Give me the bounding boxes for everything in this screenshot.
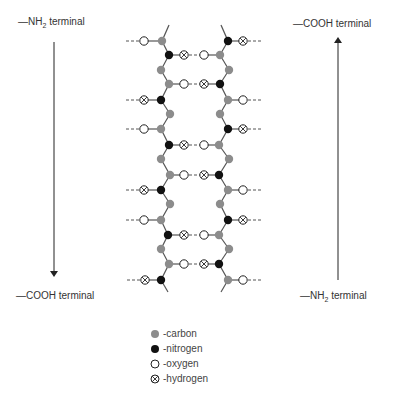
oxygen-atom bbox=[239, 96, 247, 104]
oxygen-atom bbox=[180, 80, 188, 88]
oxygen-atom bbox=[180, 260, 188, 268]
carbon-atom bbox=[216, 110, 224, 118]
carbon-atom bbox=[166, 110, 174, 118]
carbon-atom bbox=[166, 171, 174, 179]
carbon-atom bbox=[216, 51, 224, 59]
nitrogen-icon bbox=[150, 344, 160, 354]
atoms bbox=[140, 37, 247, 284]
carbon-atom bbox=[157, 216, 165, 224]
oxygen-atom bbox=[200, 141, 208, 149]
nitrogen-atom bbox=[165, 141, 173, 149]
nitrogen-atom bbox=[216, 80, 224, 88]
legend-label: -nitrogen bbox=[163, 343, 202, 354]
hydrogen-atom bbox=[239, 125, 247, 133]
oxygen-atom bbox=[239, 186, 247, 194]
carbon-atom bbox=[165, 80, 173, 88]
hydrogen-atom bbox=[239, 216, 247, 224]
carbon-atom bbox=[215, 141, 223, 149]
oxygen-atom bbox=[140, 216, 148, 224]
carbon-atom bbox=[166, 200, 174, 208]
carbon-atom bbox=[216, 200, 224, 208]
hydrogen-atom bbox=[200, 260, 208, 268]
carbon-atom bbox=[157, 125, 165, 133]
carbon-atom bbox=[165, 260, 173, 268]
carbon-atom bbox=[224, 186, 232, 194]
carbon-atom bbox=[157, 245, 165, 253]
oxygen-atom bbox=[239, 276, 247, 284]
oxygen-atom bbox=[140, 125, 148, 133]
carbon-icon bbox=[150, 329, 160, 339]
legend-item-hydrogen: -hydrogen bbox=[150, 371, 208, 386]
hydrogen-atom bbox=[140, 96, 148, 104]
beta-sheet-diagram bbox=[0, 0, 397, 320]
carbon-atom bbox=[224, 276, 232, 284]
outer-dashed-bonds bbox=[124, 41, 263, 280]
direction-arrows bbox=[54, 40, 338, 280]
carbon-atom bbox=[158, 37, 166, 45]
legend-label: -carbon bbox=[163, 328, 197, 339]
hydrogen-atom bbox=[140, 186, 148, 194]
legend-item-nitrogen: -nitrogen bbox=[150, 341, 208, 356]
hydrogen-atom bbox=[180, 231, 188, 239]
hydrogen-icon bbox=[150, 374, 160, 384]
nitrogen-atom bbox=[157, 276, 165, 284]
carbon-atom bbox=[225, 245, 233, 253]
carbon-atom bbox=[157, 66, 165, 74]
nitrogen-atom bbox=[165, 51, 173, 59]
nitrogen-atom bbox=[224, 125, 232, 133]
carbon-atom bbox=[225, 66, 233, 74]
carbon-atom bbox=[225, 155, 233, 163]
nitrogen-atom bbox=[224, 37, 232, 45]
nitrogen-atom bbox=[164, 231, 172, 239]
oxygen-icon bbox=[150, 359, 160, 369]
oxygen-atom bbox=[140, 37, 148, 45]
oxygen-atom bbox=[200, 231, 208, 239]
legend-label: -oxygen bbox=[163, 358, 199, 369]
nitrogen-atom bbox=[215, 171, 223, 179]
legend: -carbon -nitrogen -oxygen -hydrogen bbox=[150, 326, 208, 386]
hydrogen-atom bbox=[239, 37, 247, 45]
legend-item-oxygen: -oxygen bbox=[150, 356, 208, 371]
carbon-atom bbox=[215, 231, 223, 239]
oxygen-atom bbox=[180, 171, 188, 179]
hydrogen-atom bbox=[141, 276, 149, 284]
hydrogen-atom bbox=[180, 141, 188, 149]
hydrogen-atom bbox=[180, 51, 188, 59]
carbon-atom bbox=[157, 155, 165, 163]
legend-label: -hydrogen bbox=[163, 373, 208, 384]
carbon-atom bbox=[224, 96, 232, 104]
hydrogen-atom bbox=[200, 80, 208, 88]
hydrogen-atom bbox=[200, 171, 208, 179]
nitrogen-atom bbox=[215, 260, 223, 268]
legend-item-carbon: -carbon bbox=[150, 326, 208, 341]
nitrogen-atom bbox=[224, 216, 232, 224]
nitrogen-atom bbox=[157, 186, 165, 194]
nitrogen-atom bbox=[157, 96, 165, 104]
oxygen-atom bbox=[200, 51, 208, 59]
